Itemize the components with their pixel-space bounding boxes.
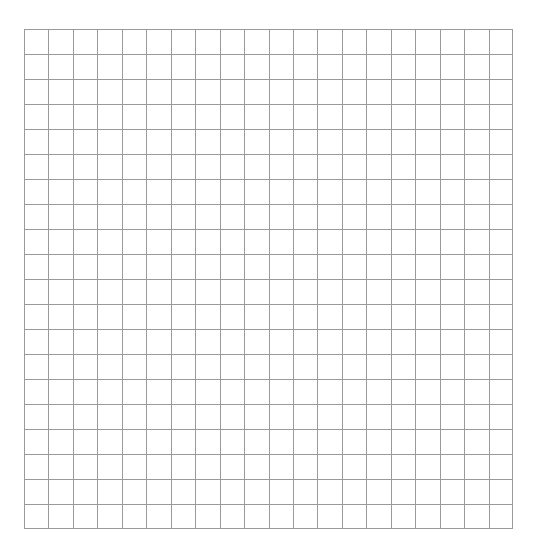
- grid-paper: [24, 29, 513, 529]
- canvas: [0, 0, 542, 555]
- grid-lines: [24, 29, 513, 529]
